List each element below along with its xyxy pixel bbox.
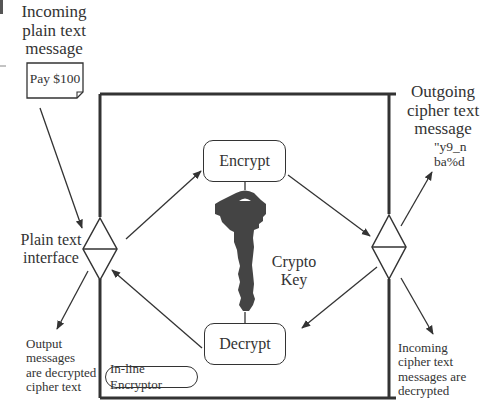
note-card-text: Pay $100 (27, 72, 83, 87)
plain-interface-line2: interface (16, 249, 86, 267)
output-note-line4: cipher text (26, 380, 106, 394)
crypto-key-label: Crypto Key (266, 253, 322, 288)
inline-encryptor-label: In-line Encryptor (105, 366, 198, 388)
incoming-cipher-line3: messages are (398, 370, 490, 384)
output-messages-note: Output messages are decrypted cipher tex… (26, 337, 106, 394)
decrypt-box: Decrypt (204, 323, 286, 365)
output-note-line3: are decrypted (26, 366, 106, 380)
edge-marks (0, 0, 6, 66)
outgoing-cipher-label: Outgoing cipher text message (395, 83, 491, 139)
incoming-cipher-note: Incoming cipher text messages are decryp… (398, 341, 490, 398)
crypto-key-line2: Key (266, 271, 322, 289)
outgoing-cipher-line2: cipher text (395, 102, 491, 121)
incoming-plain-label: Incoming plain text message (14, 3, 94, 59)
plain-interface-label: Plain text interface (16, 231, 86, 266)
incoming-cipher-line2: cipher text (398, 355, 490, 369)
incoming-plain-line3: message (14, 40, 94, 59)
cipher-sample-line1: "y9_n (434, 140, 484, 155)
outgoing-cipher-line3: message (395, 120, 491, 139)
crypto-key-line1: Crypto (266, 253, 322, 271)
cipher-sample-line2: ba%d (434, 155, 484, 170)
plain-interface-line1: Plain text (16, 231, 86, 249)
incoming-cipher-line1: Incoming (398, 341, 490, 355)
output-note-line2: messages (26, 351, 106, 365)
incoming-cipher-line4: decrypted (398, 384, 490, 398)
crypto-key-icon (215, 191, 266, 312)
encrypt-box: Encrypt (203, 140, 286, 182)
cipher-sample: "y9_n ba%d (434, 140, 484, 170)
outgoing-cipher-line1: Outgoing (395, 83, 491, 102)
incoming-plain-line2: plain text (14, 22, 94, 41)
output-note-line1: Output (26, 337, 106, 351)
cipher-text-interface-diamond (372, 215, 406, 279)
incoming-plain-line1: Incoming (14, 3, 94, 22)
